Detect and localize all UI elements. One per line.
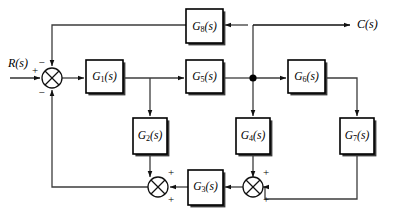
wire-g6-to-g7 [325, 78, 357, 116]
sign-bl-top: + [168, 166, 174, 178]
sign-bl-bottom: + [168, 193, 174, 205]
sign-left-input: + [32, 64, 38, 76]
block-diagram-canvas: G8(s) G1(s) G5(s) G6(s) G2(s) G4(s) [0, 0, 395, 216]
block-g6[interactable]: G6(s) [288, 60, 327, 95]
block-g8[interactable]: G8(s) [186, 9, 225, 45]
sign-br-bottom: + [263, 193, 269, 205]
block-g4[interactable]: G4(s) [236, 118, 272, 156]
summing-junction-bottom-right[interactable]: + + [243, 166, 269, 205]
sign-br-top: + [263, 166, 269, 178]
block-g3[interactable]: G3(s) [188, 170, 225, 207]
summing-junction-left[interactable]: − + − [32, 56, 62, 98]
sign-left-top: − [38, 56, 44, 68]
block-g1[interactable]: G1(s) [86, 60, 125, 95]
summing-junction-bottom-left[interactable]: + + [148, 166, 174, 205]
input-signal-label: R(s) [7, 56, 28, 70]
output-signal-label: C(s) [357, 17, 378, 31]
sign-left-bottom: − [38, 86, 44, 98]
block-g7[interactable]: G7(s) [340, 118, 376, 156]
takeoff-node-dot [249, 74, 256, 81]
block-g2[interactable]: G2(s) [133, 118, 169, 156]
block-g5[interactable]: G5(s) [186, 60, 225, 95]
block-diagram-svg: G8(s) G1(s) G5(s) G6(s) G2(s) G4(s) [0, 0, 395, 216]
wire-g7-to-sum-br [263, 154, 357, 199]
